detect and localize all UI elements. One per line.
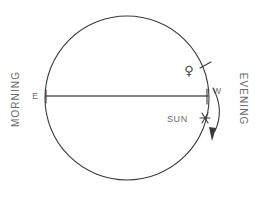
east-label: E bbox=[32, 91, 38, 101]
venus-symbol-icon: ♀ bbox=[184, 63, 194, 78]
sun-label: SUN bbox=[167, 114, 188, 124]
sky-diagram-svg: E W MORNING EVENING ♀ SUN bbox=[0, 0, 259, 198]
morning-label: MORNING bbox=[10, 71, 21, 127]
sky-circle bbox=[45, 16, 209, 180]
evening-label: EVENING bbox=[238, 73, 249, 126]
sky-diagram-container: E W MORNING EVENING ♀ SUN bbox=[0, 0, 259, 198]
